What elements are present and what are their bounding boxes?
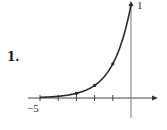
data-point (93, 84, 96, 87)
plot-area (0, 0, 167, 130)
x-tick-label-min: −5 (27, 102, 39, 114)
x-axis-arrow-icon (152, 96, 158, 101)
y-tick-label-max: 1 (137, 0, 143, 11)
data-point (75, 92, 78, 95)
data-point (129, 3, 132, 6)
exponential-curve (40, 5, 131, 97)
data-point (111, 62, 114, 65)
marked-points (75, 3, 133, 95)
exponential-graph-figure: 1. −5 1 (0, 0, 167, 130)
